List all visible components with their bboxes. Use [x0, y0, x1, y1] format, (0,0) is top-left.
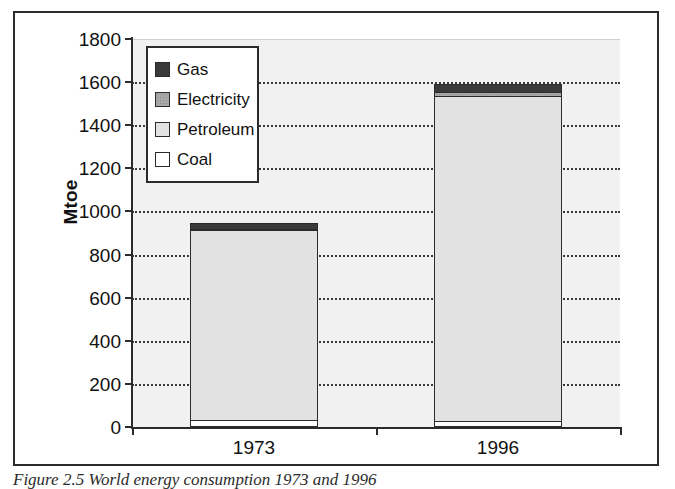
y-axis-tick-label: 1800	[59, 30, 121, 49]
y-axis-tick-mark	[125, 167, 132, 169]
y-axis-tick-label: 1200	[59, 159, 121, 178]
legend-item[interactable]: Coal	[155, 144, 250, 174]
y-axis-tick-mark	[125, 297, 132, 299]
bar-segment-coal[interactable]	[435, 422, 561, 426]
bar-segment-gas[interactable]	[435, 85, 561, 93]
y-axis-tick-label: 400	[59, 331, 121, 350]
figure-caption: Figure 2.5 World energy consumption 1973…	[13, 471, 661, 489]
chart-legend: GasElectricityPetroleumCoal	[146, 46, 259, 183]
y-axis-tick-label: 200	[59, 374, 121, 393]
bar-stack[interactable]	[190, 223, 318, 427]
y-axis-tick-mark	[125, 340, 132, 342]
y-axis-tick-mark	[125, 81, 132, 83]
legend-swatch-electricity	[155, 92, 170, 107]
y-axis-tick-label: 0	[59, 418, 121, 437]
y-axis-tick-label: 1400	[59, 116, 121, 135]
y-axis-tick-label: 800	[59, 245, 121, 264]
legend-swatch-gas	[155, 62, 170, 77]
bar-group[interactable]	[434, 39, 562, 427]
legend-label: Petroleum	[177, 121, 254, 138]
y-axis-tick-mark	[125, 38, 132, 40]
legend-item[interactable]: Electricity	[155, 84, 250, 114]
x-axis-tick-mark	[132, 427, 134, 435]
legend-item[interactable]: Gas	[155, 54, 250, 84]
x-axis-tick-mark	[620, 427, 622, 435]
y-axis-tick-mark	[125, 254, 132, 256]
y-axis-tick-mark	[125, 124, 132, 126]
y-axis-tick-label: 1000	[59, 202, 121, 221]
x-axis-category-label: 1973	[184, 437, 324, 459]
x-axis-tick-mark	[376, 427, 378, 435]
y-axis-tick-labels: 020040060080010001200140016001800	[59, 39, 121, 427]
x-axis-category-label: 1996	[428, 437, 568, 459]
legend-label: Electricity	[177, 91, 250, 108]
y-axis-tick-label: 600	[59, 288, 121, 307]
y-axis-tick-mark	[125, 210, 132, 212]
bar-segment-coal[interactable]	[191, 421, 317, 426]
y-axis-line	[131, 37, 133, 429]
bar-stack[interactable]	[434, 84, 562, 427]
y-axis-tick-mark	[125, 383, 132, 385]
bar-segment-petroleum[interactable]	[191, 231, 317, 421]
legend-swatch-petroleum	[155, 122, 170, 137]
y-axis-tick-label: 1600	[59, 73, 121, 92]
bar-segment-petroleum[interactable]	[435, 97, 561, 422]
figure-frame: Mtoe 020040060080010001200140016001800 1…	[13, 11, 659, 466]
legend-label: Coal	[177, 151, 212, 168]
chart-plot-wrapper: Mtoe 020040060080010001200140016001800 1…	[15, 13, 661, 468]
legend-item[interactable]: Petroleum	[155, 114, 250, 144]
legend-swatch-coal	[155, 152, 170, 167]
legend-label: Gas	[177, 61, 208, 78]
y-axis-tick-mark	[125, 426, 132, 428]
